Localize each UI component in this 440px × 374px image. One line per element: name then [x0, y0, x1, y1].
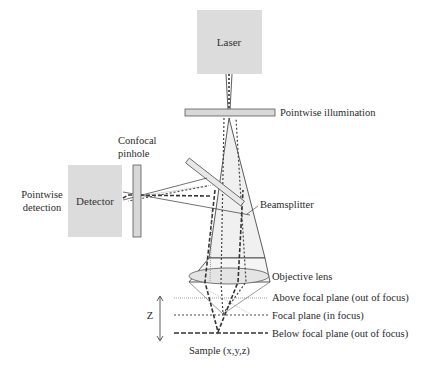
objective-lens	[189, 268, 269, 284]
sample-label: Sample (x,y,z)	[189, 345, 250, 357]
above-plane-label: Above focal plane (out of focus)	[272, 292, 409, 304]
pinhole-label-1: Confocal	[118, 135, 157, 146]
detection-label-1: Pointwise	[21, 189, 63, 200]
detector-label: Detector	[76, 195, 114, 207]
below-plane-label: Below focal plane (out of focus)	[272, 328, 409, 340]
focal-plane-label: Focal plane (in focus)	[272, 310, 364, 322]
illumination-label: Pointwise illumination	[280, 107, 376, 118]
illumination-plate	[185, 109, 275, 116]
detection-label-2: detection	[23, 202, 62, 213]
pinhole-label-2: pinhole	[118, 148, 150, 159]
pinhole-plate	[133, 165, 141, 237]
objective-label: Objective lens	[272, 271, 332, 282]
confocal-diagram: Laser Pointwise illumination Objective l…	[0, 0, 440, 374]
beamsplitter-label: Beamsplitter	[260, 199, 314, 210]
z-label: Z	[147, 310, 153, 321]
laser-label: Laser	[217, 36, 242, 48]
